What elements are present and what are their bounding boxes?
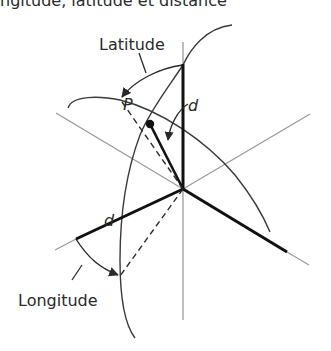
latitude-arrow — [122, 65, 183, 97]
coordinate-diagram: Latitude Longitude P d d — [0, 0, 331, 351]
latitude-label: Latitude — [99, 35, 165, 54]
distance-label-vertical: d — [188, 96, 199, 115]
point-p-label: P — [123, 95, 133, 114]
parallel-arc — [68, 97, 270, 232]
sphere-arcs — [68, 25, 270, 338]
distance-label-horizontal: d — [104, 211, 115, 230]
longitude-leader — [72, 265, 82, 280]
longitude-arrow — [76, 239, 118, 275]
thick-lower-right — [183, 189, 287, 252]
diagonal-axis-lower-left-ext — [55, 239, 76, 250]
meridian-arc — [120, 25, 232, 338]
latitude-leader — [139, 53, 146, 73]
longitude-label: Longitude — [18, 291, 98, 310]
diagonal-axis-upper-right — [183, 114, 310, 189]
point-p — [146, 120, 154, 128]
thick-lower-left — [76, 189, 183, 239]
dash-origin-to-longitude — [120, 189, 183, 276]
dash-p-to-parallel — [122, 102, 183, 189]
diagonal-axis-lower-right-ext — [287, 252, 309, 265]
